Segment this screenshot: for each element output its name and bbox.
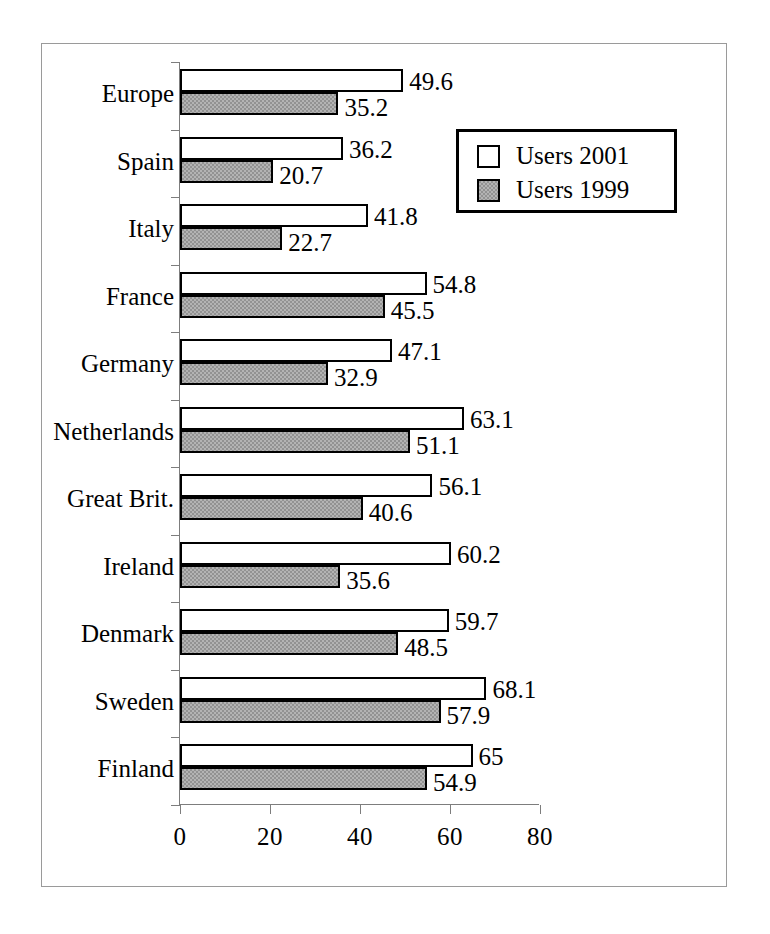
bar-value-label: 54.9 — [433, 769, 477, 797]
bar-value-label: 59.7 — [455, 608, 499, 636]
category-label: Great Brit. — [0, 483, 174, 515]
bar-series-b — [180, 362, 328, 385]
legend-item-users-2001: Users 2001 — [477, 140, 629, 172]
value-axis-tick-label: 60 — [420, 822, 480, 852]
bar-series-b — [180, 295, 385, 318]
bar-series-a — [180, 744, 473, 767]
bar-series-a — [180, 69, 403, 92]
bar-row: Denmark59.748.5 — [42, 602, 728, 670]
value-axis-tick-label: 80 — [510, 822, 570, 852]
plot-area: 020406080 Europe49.635.2Spain36.220.7Ita… — [42, 44, 728, 888]
value-axis-tick-label: 20 — [240, 822, 300, 852]
category-label: Germany — [0, 348, 174, 380]
bar-series-b — [180, 700, 441, 723]
bar-value-label: 40.6 — [369, 499, 413, 527]
bar-row: Finland6554.9 — [42, 737, 728, 805]
bar-series-b — [180, 227, 282, 250]
value-axis-tick — [180, 805, 181, 814]
bar-value-label: 65 — [479, 743, 504, 771]
bar-series-a — [180, 204, 368, 227]
bar-value-label: 60.2 — [457, 541, 501, 569]
bar-series-b — [180, 632, 398, 655]
bar-value-label: 36.2 — [349, 136, 393, 164]
bar-series-b — [180, 92, 338, 115]
bar-series-a — [180, 677, 486, 700]
category-label: Finland — [0, 753, 174, 785]
bar-series-a — [180, 609, 449, 632]
value-axis-tick — [450, 805, 451, 814]
bar-value-label: 68.1 — [492, 676, 536, 704]
bar-row: Ireland60.235.6 — [42, 535, 728, 603]
value-axis-tick — [540, 805, 541, 814]
legend-label-users-1999: Users 1999 — [516, 176, 629, 204]
chart-page: 020406080 Europe49.635.2Spain36.220.7Ita… — [0, 0, 770, 934]
bar-value-label: 54.8 — [433, 271, 477, 299]
bar-series-a — [180, 339, 392, 362]
legend-swatch-users-1999 — [477, 179, 500, 202]
bar-value-label: 48.5 — [404, 634, 448, 662]
bar-series-a — [180, 137, 343, 160]
bar-value-label: 63.1 — [470, 406, 514, 434]
category-label: Europe — [0, 78, 174, 110]
bar-value-label: 57.9 — [447, 702, 491, 730]
legend-label-users-2001: Users 2001 — [516, 142, 629, 170]
category-label: Italy — [0, 213, 174, 245]
bar-series-a — [180, 474, 432, 497]
bar-value-label: 45.5 — [391, 297, 435, 325]
bar-value-label: 47.1 — [398, 338, 442, 366]
bar-series-b — [180, 160, 273, 183]
figure-frame: 020406080 Europe49.635.2Spain36.220.7Ita… — [41, 43, 727, 887]
bar-row: Netherlands63.151.1 — [42, 400, 728, 468]
bar-series-a — [180, 272, 427, 295]
value-axis-tick — [270, 805, 271, 814]
category-label: Ireland — [0, 551, 174, 583]
bar-row: Europe49.635.2 — [42, 62, 728, 130]
category-label: France — [0, 281, 174, 313]
bar-series-b — [180, 565, 340, 588]
category-label: Spain — [0, 146, 174, 178]
legend-swatch-users-2001 — [477, 145, 500, 168]
value-axis-tick-label: 40 — [330, 822, 390, 852]
value-axis-tick — [360, 805, 361, 814]
category-label: Sweden — [0, 686, 174, 718]
bar-row: Germany47.132.9 — [42, 332, 728, 400]
bar-value-label: 41.8 — [374, 203, 418, 231]
bar-value-label: 51.1 — [416, 432, 460, 460]
bar-series-b — [180, 767, 427, 790]
category-label: Netherlands — [0, 416, 174, 448]
bar-series-a — [180, 407, 464, 430]
value-axis-tick-label: 0 — [150, 822, 210, 852]
bar-series-b — [180, 430, 410, 453]
bar-value-label: 32.9 — [334, 364, 378, 392]
bar-row: Sweden68.157.9 — [42, 670, 728, 738]
bar-value-label: 22.7 — [288, 229, 332, 257]
bar-value-label: 56.1 — [438, 473, 482, 501]
bar-value-label: 20.7 — [279, 162, 323, 190]
bar-series-a — [180, 542, 451, 565]
bar-series-b — [180, 497, 363, 520]
bar-row: France54.845.5 — [42, 265, 728, 333]
bar-value-label: 49.6 — [409, 68, 453, 96]
bar-row: Great Brit.56.140.6 — [42, 467, 728, 535]
category-label: Denmark — [0, 618, 174, 650]
bar-value-label: 35.2 — [344, 94, 388, 122]
chart-legend: Users 2001 Users 1999 — [456, 129, 677, 213]
bar-value-label: 35.6 — [346, 567, 390, 595]
legend-item-users-1999: Users 1999 — [477, 174, 629, 206]
